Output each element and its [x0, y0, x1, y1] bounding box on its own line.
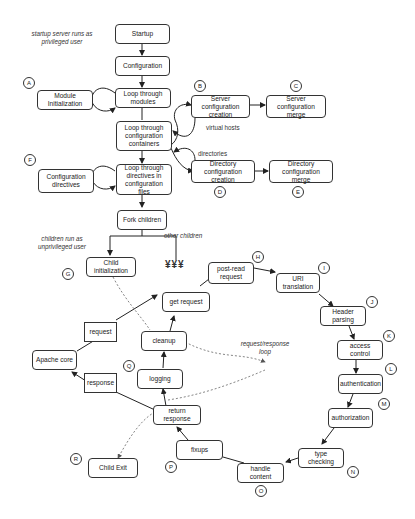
configuration-box: Configuration — [115, 56, 170, 76]
get-request-box: get request — [162, 292, 210, 312]
fixups-box: fixups — [176, 440, 223, 460]
fork-children-box: Fork children — [117, 210, 167, 230]
request-response-loop-note: request/response loop — [230, 340, 300, 356]
marker-c: C — [290, 80, 302, 92]
type-checking-box: type checking — [298, 448, 344, 468]
server-config-merge-box: Server configuration merge — [266, 95, 326, 118]
marker-k: K — [383, 330, 395, 342]
config-directives-box: Configuration directives — [38, 169, 94, 193]
apache-lifecycle-diagram: startup server runs as privileged user c… — [0, 0, 415, 519]
loop-modules-box: Loop through modules — [115, 88, 171, 108]
marker-j: J — [366, 296, 378, 308]
child-initialization-box: Child initialization — [86, 257, 136, 277]
access-control-box: access control — [337, 340, 383, 360]
authentication-box: authentication — [338, 374, 383, 394]
marker-i: I — [318, 262, 330, 274]
directory-config-merge-box: Directory configuration merge — [269, 160, 333, 183]
logging-box: logging — [137, 369, 183, 389]
marker-r: R — [70, 453, 82, 465]
cleanup-box: cleanup — [141, 331, 187, 351]
header-parsing-box: Header parsing — [320, 306, 366, 326]
marker-m: M — [378, 398, 390, 410]
startup-privilege-note: startup server runs as privileged user — [22, 30, 102, 46]
marker-o: O — [255, 485, 267, 497]
marker-g: G — [62, 268, 74, 280]
marker-f: F — [24, 154, 36, 166]
response-box: response — [84, 373, 117, 393]
children-privilege-note: children run as unprivileged user — [32, 235, 92, 251]
module-initialization-box: Module Initialization — [37, 90, 93, 110]
startup-box: Startup — [115, 24, 170, 44]
marker-h: H — [252, 251, 264, 263]
other-children-label: other children — [164, 232, 202, 239]
loop-containers-box: Loop through configuration containers — [116, 121, 172, 151]
marker-p: P — [165, 461, 177, 473]
child-exit-box: Child Exit — [88, 458, 138, 478]
marker-a: A — [23, 77, 35, 89]
authorization-box: authorization — [328, 408, 373, 428]
marker-n: N — [347, 466, 359, 478]
post-read-request-box: post-read request — [208, 262, 254, 284]
marker-d: D — [214, 186, 226, 198]
marker-l: L — [385, 363, 397, 375]
apache-core-box: Apache core — [32, 350, 77, 370]
loop-directives-box: Loop through directives in configuration… — [116, 164, 172, 195]
directories-label: directories — [198, 150, 227, 157]
marker-q: Q — [123, 360, 135, 372]
other-children-symbols: ¥¥¥ — [165, 259, 185, 270]
uri-translation-box: URI translation — [276, 273, 320, 293]
marker-e: E — [292, 186, 304, 198]
server-config-creation-box: Server configuration creation — [191, 95, 250, 118]
virtual-hosts-label: virtual hosts — [206, 124, 240, 131]
marker-b: B — [194, 80, 206, 92]
handle-content-box: handle content — [237, 463, 284, 483]
return-response-box: return response — [153, 405, 201, 425]
request-box: request — [84, 322, 117, 342]
directory-config-creation-box: Directory configuration creation — [191, 160, 255, 183]
